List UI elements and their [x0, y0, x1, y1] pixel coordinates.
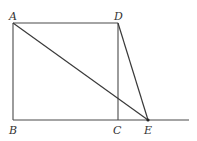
label-d: D — [113, 10, 123, 23]
label-b: B — [8, 124, 17, 137]
label-a: A — [8, 10, 17, 23]
label-c: C — [113, 124, 122, 137]
segment-de — [118, 23, 148, 120]
geometry-diagram: A D B C E — [0, 0, 197, 141]
point-e-dot — [146, 118, 149, 121]
label-e: E — [143, 124, 152, 137]
segment-ae — [13, 23, 148, 120]
